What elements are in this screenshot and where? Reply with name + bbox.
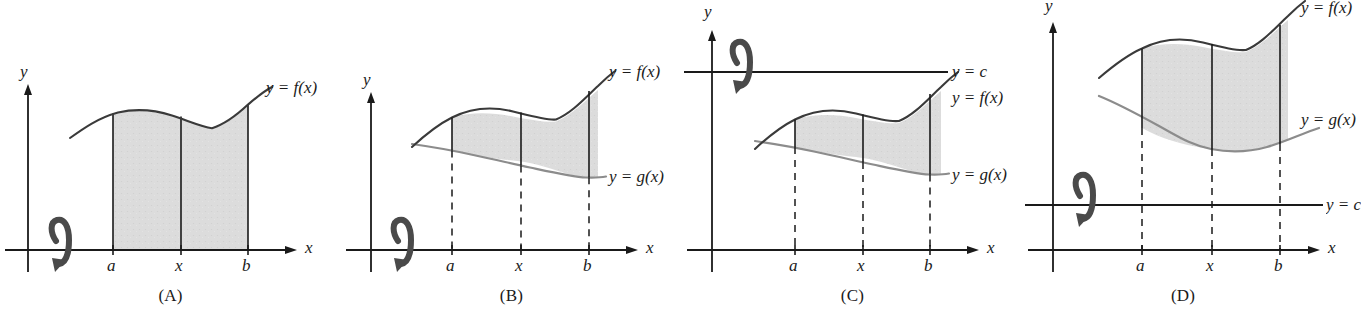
tick-label-b: b bbox=[924, 256, 933, 276]
panel-c: y x a x b y = c y = f(x) y = g(x) (C) bbox=[682, 0, 1023, 321]
tick-label-x: x bbox=[515, 256, 523, 276]
tick-label-a: a bbox=[1136, 256, 1145, 276]
tick-label-a: a bbox=[107, 256, 116, 276]
panel-caption-b: (B) bbox=[341, 286, 682, 306]
curve-f-label: y = f(x) bbox=[609, 62, 660, 82]
figure-root: y x a x b y = f(x) (A) bbox=[0, 0, 1365, 321]
tick-label-x: x bbox=[1206, 256, 1214, 276]
shaded-region bbox=[452, 90, 598, 177]
tick-label-b: b bbox=[242, 256, 251, 276]
panel-a-canvas bbox=[0, 0, 341, 321]
tick-label-a: a bbox=[789, 256, 798, 276]
rotation-arrow-icon bbox=[394, 220, 411, 272]
rotation-arrow-icon bbox=[733, 42, 750, 94]
y-axis-arrowhead bbox=[1049, 22, 1057, 33]
rotation-arrow-icon bbox=[1076, 175, 1093, 227]
panel-c-canvas bbox=[682, 0, 1023, 321]
shaded-region bbox=[1142, 20, 1288, 151]
y-axis-label: y bbox=[363, 70, 371, 90]
tick-label-b: b bbox=[583, 256, 592, 276]
curve-f-label: y = f(x) bbox=[952, 88, 1003, 108]
panel-a: y x a x b y = f(x) (A) bbox=[0, 0, 341, 321]
panel-caption-d: (D) bbox=[1023, 286, 1343, 306]
y-axis-arrowhead bbox=[367, 92, 375, 103]
x-axis-arrowhead bbox=[285, 246, 297, 254]
x-axis-label: x bbox=[646, 238, 654, 258]
panel-b: y x a x b y = f(x) y = g(x) (B) bbox=[341, 0, 682, 321]
x-axis-arrowhead bbox=[967, 246, 979, 254]
curve-g-label: y = g(x) bbox=[952, 165, 1007, 185]
tick-label-x: x bbox=[175, 256, 183, 276]
x-axis-label: x bbox=[987, 238, 995, 258]
line-c-label: y = c bbox=[1326, 195, 1361, 215]
y-axis-label: y bbox=[704, 2, 712, 22]
y-axis-label: y bbox=[1045, 0, 1053, 16]
tick-label-a: a bbox=[446, 256, 455, 276]
rotation-arrow-icon bbox=[52, 220, 69, 272]
line-c-label: y = c bbox=[952, 62, 987, 82]
panel-b-canvas bbox=[341, 0, 682, 321]
curve-g-label: y = g(x) bbox=[609, 167, 664, 187]
curve-g-label: y = g(x) bbox=[1301, 110, 1356, 130]
tick-label-x: x bbox=[857, 256, 865, 276]
y-axis-arrowhead bbox=[24, 84, 32, 95]
panel-caption-c: (C) bbox=[682, 286, 1023, 306]
x-axis-arrowhead bbox=[626, 246, 638, 254]
tick-label-b: b bbox=[1274, 256, 1283, 276]
x-axis-label: x bbox=[305, 238, 313, 258]
panel-d: y x a x b y = f(x) y = g(x) y = c (D) bbox=[1023, 0, 1365, 321]
curve-f-label: y = f(x) bbox=[266, 78, 317, 98]
shaded-region bbox=[113, 111, 212, 250]
panel-caption-a: (A) bbox=[0, 286, 341, 306]
x-axis-arrowhead bbox=[1308, 246, 1320, 254]
y-axis-label: y bbox=[20, 62, 28, 82]
curve-f-label: y = f(x) bbox=[1301, 0, 1352, 18]
y-axis-arrowhead bbox=[708, 30, 716, 41]
panel-d-canvas bbox=[1023, 0, 1365, 321]
x-axis-label: x bbox=[1328, 238, 1336, 258]
